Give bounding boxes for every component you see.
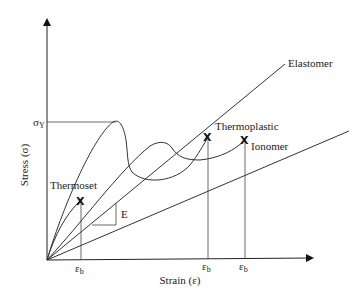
- y-axis-label: Stress (σ): [18, 144, 31, 187]
- thermoplastic-label: Thermoplastic: [215, 120, 279, 132]
- thermoset-label: Thermoset: [50, 179, 97, 191]
- ionomer-eps-b-label: εb: [239, 260, 248, 274]
- ionomer-label: Ionomer: [251, 140, 289, 152]
- thermoset-break-marker: X: [76, 195, 85, 208]
- yield-stress-label: σY: [33, 116, 45, 130]
- elastomer-label: Elastomer: [288, 57, 333, 69]
- x-axis-label: Strain (ε): [160, 274, 201, 287]
- elastomer-curve: [47, 64, 285, 260]
- ionomer-break-marker: X: [240, 134, 249, 147]
- stress-strain-diagram: X X X Stress (σ) Strain (ε) σY εb εb εb …: [0, 0, 349, 301]
- thermoplastic-break-marker: X: [203, 131, 212, 144]
- thermoset-eps-b-label: εb: [75, 262, 84, 276]
- modulus-label: E: [121, 208, 128, 220]
- thermoset-curve: [47, 200, 81, 260]
- x-axis: [47, 258, 312, 260]
- thermoplastic-eps-b-label: εb: [202, 260, 211, 274]
